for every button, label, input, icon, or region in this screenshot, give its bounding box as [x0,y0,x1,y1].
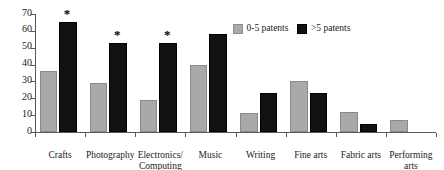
y-tick-label: 50 [22,41,32,51]
bar [260,93,278,132]
bar [109,43,127,132]
bar-group: * [35,14,85,132]
x-axis-category-label: Writing [236,150,286,161]
plot-area: 010203040506070*Crafts*Photography*Elect… [35,14,436,132]
significance-asterisk: * [64,7,71,20]
x-tick-mark [286,133,287,137]
bar-group: * [135,14,185,132]
x-tick-mark [185,133,186,137]
bar-chart: 0-5 patents>5 patents 010203040506070*Cr… [0,0,444,170]
bar-group [185,14,235,132]
bar-group [336,14,386,132]
y-tick-label: 70 [22,8,32,18]
bar [140,100,158,132]
bar-group: * [85,14,135,132]
bar [190,65,208,132]
x-axis-category-label: Electronics/ Computing [135,150,185,170]
y-tick-label: 10 [22,109,32,119]
x-axis-category-label: Fabric arts [336,150,386,161]
x-tick-mark [336,133,337,137]
x-tick-mark [236,133,237,137]
bar [390,120,408,132]
bar [340,112,358,132]
significance-asterisk: * [164,28,171,41]
bar [159,43,177,132]
bar [90,83,108,132]
x-axis-category-label: Music [185,150,235,161]
x-tick-mark [85,133,86,137]
x-tick-mark [386,133,387,137]
bar [40,71,58,132]
x-tick-mark [436,133,437,137]
y-tick-label: 40 [22,58,32,68]
x-axis-category-label: Crafts [35,150,85,161]
y-tick-label: 20 [22,92,32,102]
bar [240,113,258,132]
bar [59,22,77,132]
bar [209,34,227,132]
bar-group [386,14,436,132]
x-tick-mark [35,133,36,137]
x-axis-category-label: Fine arts [286,150,336,161]
bar-group [286,14,336,132]
x-axis-category-label: Performing arts [386,150,436,170]
bar [290,81,308,132]
bar [360,124,378,132]
bar [310,93,328,132]
x-axis-category-label: Photography [85,150,135,161]
y-tick-label: 30 [22,75,32,85]
significance-asterisk: * [114,28,121,41]
y-tick-label: 0 [27,126,32,136]
x-tick-mark [135,133,136,137]
bar-group [236,14,286,132]
y-tick-label: 60 [22,24,32,34]
